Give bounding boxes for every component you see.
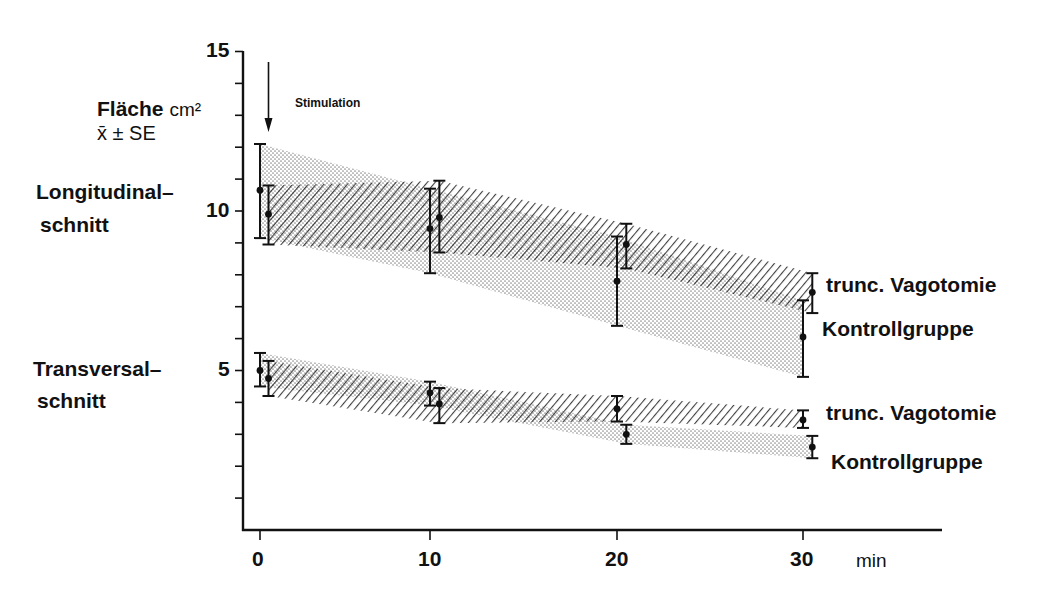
group-label-longitudinal-1: Longitudinal– xyxy=(36,180,174,204)
mean-point xyxy=(427,225,434,232)
legend-transversal-kontrollgruppe: Kontrollgruppe xyxy=(831,450,983,474)
mean-point xyxy=(265,375,272,382)
mean-point xyxy=(800,417,807,424)
group-label-transversal-2: schnitt xyxy=(37,389,106,413)
x-tick-20: 20 xyxy=(605,547,628,571)
mean-point xyxy=(436,214,443,221)
mean-point xyxy=(257,367,264,374)
mean-point xyxy=(809,289,816,296)
x-tick-10: 10 xyxy=(418,547,441,571)
x-tick-0: 0 xyxy=(252,547,264,571)
mean-point xyxy=(623,241,630,248)
mean-point xyxy=(623,431,630,438)
y-axis-title-text: Fläche xyxy=(97,97,164,120)
x-axis-unit: min xyxy=(856,550,887,572)
legend-longitudinal-kontrollgruppe: Kontrollgruppe xyxy=(822,317,974,341)
group-label-transversal-1: Transversal– xyxy=(33,357,161,381)
mean-point xyxy=(614,405,621,412)
mean-point xyxy=(800,334,807,341)
legend-longitudinal-vagotomie: trunc. Vagotomie xyxy=(826,273,996,297)
confidence-bands xyxy=(260,144,812,458)
y-axis-subtitle: x̄ ± SE xyxy=(97,122,156,145)
mean-point xyxy=(427,389,434,396)
stimulation-arrow-icon xyxy=(265,118,273,132)
mean-point xyxy=(265,211,272,218)
y-tick-15: 15 xyxy=(206,38,229,62)
mean-point xyxy=(614,278,621,285)
y-tick-5: 5 xyxy=(218,357,230,381)
mean-point xyxy=(809,444,816,451)
y-tick-10: 10 xyxy=(206,198,229,222)
chart-canvas xyxy=(0,0,1062,597)
group-label-longitudinal-2: schnitt xyxy=(40,213,109,237)
mean-point xyxy=(257,187,264,194)
y-axis-title: Fläche cm² xyxy=(97,97,201,121)
x-tick-30: 30 xyxy=(790,547,813,571)
legend-transversal-vagotomie: trunc. Vagotomie xyxy=(826,401,996,425)
y-axis-unit: cm² xyxy=(169,99,201,120)
mean-point xyxy=(436,401,443,408)
stimulation-label: Stimulation xyxy=(295,96,360,110)
